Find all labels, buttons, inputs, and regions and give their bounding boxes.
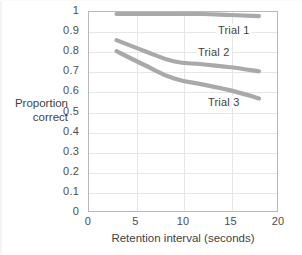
series-label-trial-3: Trial 3 (206, 96, 242, 108)
series-line-trial-1 (117, 14, 260, 16)
chart-screenshot: 00.10.20.30.40.50.60.70.80.91 05101520 P… (0, 0, 302, 255)
series-label-trial-1: Trial 1 (216, 24, 252, 36)
series-line-trial-3 (117, 51, 260, 98)
series-label-trial-2: Trial 2 (196, 46, 232, 58)
series-line-trial-2 (117, 40, 260, 71)
data-series-layer (0, 0, 302, 255)
